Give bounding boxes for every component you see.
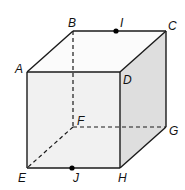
- cube-diagram: B I C A D F G E J H: [0, 0, 185, 190]
- label-h: H: [118, 171, 127, 185]
- point-j-dot: [69, 165, 74, 170]
- label-c: C: [168, 19, 177, 33]
- label-e: E: [18, 171, 27, 185]
- label-a: A: [14, 62, 23, 76]
- label-g: G: [169, 124, 178, 138]
- label-b: B: [68, 16, 76, 30]
- label-f: F: [77, 114, 85, 128]
- label-j: J: [72, 171, 80, 185]
- label-i: I: [120, 16, 124, 30]
- label-d: D: [123, 73, 132, 87]
- point-i-dot: [113, 28, 118, 33]
- cube-figure: B I C A D F G E J H: [0, 0, 185, 190]
- front-face: [27, 72, 120, 168]
